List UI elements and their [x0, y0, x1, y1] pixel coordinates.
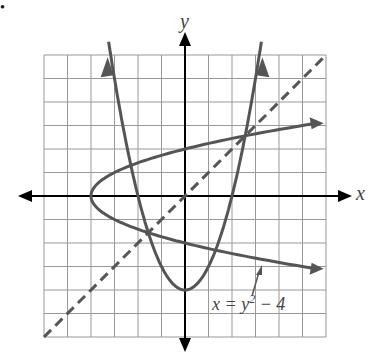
pointer-arrow-icon [252, 265, 262, 296]
graph: • y x x = y2 − 4 [0, 0, 372, 361]
equation-label: x = y2 − 4 [211, 292, 285, 314]
bullet: • [0, 0, 5, 15]
y-axis-label: y [178, 10, 189, 33]
axes [18, 32, 352, 352]
x-axis-label: x [355, 182, 365, 204]
